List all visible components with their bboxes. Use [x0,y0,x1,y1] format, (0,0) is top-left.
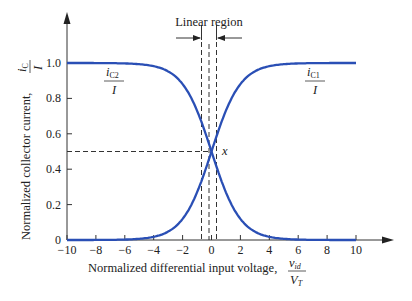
svg-text:vid: vid [289,256,302,271]
y-axis-arrow-icon [64,12,71,24]
x-tick-label: 0 [209,243,215,257]
svg-text:Normalized differential input: Normalized differential input voltage, [88,261,277,275]
svg-text:I: I [312,83,318,97]
linear-region-label: Linear region [175,15,243,29]
y-tick-label: 0.6 [46,127,61,141]
y-tick-label: 0.4 [46,162,61,176]
arrow-left-icon [217,35,225,41]
svg-text:VT: VT [290,273,303,288]
x-axis-arrow-icon [382,237,394,244]
y-axis-label: Normalized collector current, iC I [15,60,45,240]
svg-text:iC2: iC2 [106,65,119,80]
x-tick-label: −6 [118,243,131,257]
x-tick-label: 8 [324,243,330,257]
y-tick-label: 0.2 [46,198,61,212]
x-tick-label: −4 [147,243,160,257]
svg-text:iC1: iC1 [307,65,320,80]
x-axis-label: Normalized differential input voltage, v… [88,256,306,288]
axes [67,20,385,240]
x-tick-label: 6 [295,243,301,257]
x-tick-label: −2 [176,243,189,257]
x-tick-label: 2 [237,243,243,257]
y-tick-label: 0 [55,233,61,247]
svg-text:I: I [111,83,117,97]
ic2-label: iC2 I [104,65,124,97]
y-tick-label: 0.8 [46,91,61,105]
x-tick-label: −8 [90,243,103,257]
svg-text:iC: iC [15,63,30,72]
svg-text:I: I [31,65,45,71]
svg-text:Normalized collector current,: Normalized collector current, [19,93,33,241]
x-ticks: −10−8−6−4−20246810 [58,235,362,257]
chart: −10−8−6−4−20246810 00.20.40.60.81.0 Line… [0,0,412,301]
ic1-label: iC1 I [305,65,325,97]
x-tick-label: 4 [266,243,272,257]
x-tick-label: 10 [350,243,362,257]
arrow-right-icon [193,35,201,41]
y-tick-label: 1.0 [46,56,61,70]
point-x-label: x [221,144,228,158]
